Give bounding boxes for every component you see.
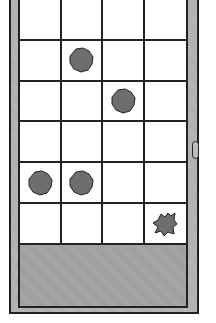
- grid-cell[interactable]: [20, 204, 62, 245]
- cabinet-frame: [9, 0, 199, 314]
- grid-cell[interactable]: [62, 163, 104, 204]
- grid-cell[interactable]: [20, 41, 62, 82]
- bottom-tray: [20, 245, 186, 306]
- door-handle-icon[interactable]: [192, 141, 199, 159]
- rock-blob-icon[interactable]: [68, 170, 94, 196]
- grid-cell[interactable]: [145, 82, 187, 123]
- grid-cell[interactable]: [62, 122, 104, 163]
- grid-cell[interactable]: [103, 41, 145, 82]
- grid-cell[interactable]: [20, 163, 62, 204]
- grid-cell[interactable]: [103, 163, 145, 204]
- grid-cell[interactable]: [145, 163, 187, 204]
- grid-cell[interactable]: [145, 204, 187, 245]
- grid-cell[interactable]: [103, 82, 145, 123]
- rock-blob-icon[interactable]: [27, 170, 53, 196]
- spiky-blob-icon[interactable]: [152, 211, 178, 237]
- grid-cell[interactable]: [103, 122, 145, 163]
- rock-blob-icon[interactable]: [110, 88, 136, 114]
- grid-cell[interactable]: [62, 204, 104, 245]
- grid-cell[interactable]: [20, 82, 62, 123]
- grid-cell[interactable]: [145, 0, 187, 41]
- grid-cell[interactable]: [62, 82, 104, 123]
- grid-cell[interactable]: [62, 41, 104, 82]
- grid-cell[interactable]: [62, 0, 104, 41]
- rock-blob-icon[interactable]: [68, 47, 94, 73]
- grid-cell[interactable]: [145, 41, 187, 82]
- grid-cell[interactable]: [103, 0, 145, 41]
- game-grid: [20, 0, 186, 245]
- grid-cell[interactable]: [145, 122, 187, 163]
- cabinet-interior: [18, 0, 188, 308]
- grid-cell[interactable]: [20, 122, 62, 163]
- grid-cell[interactable]: [103, 204, 145, 245]
- grid-cell[interactable]: [20, 0, 62, 41]
